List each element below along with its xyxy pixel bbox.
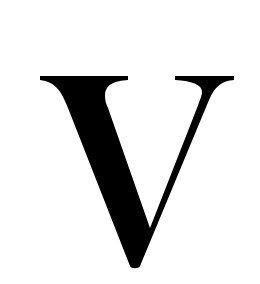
letter-v-icon <box>0 0 260 284</box>
letter-v-glyph: V <box>0 0 260 284</box>
